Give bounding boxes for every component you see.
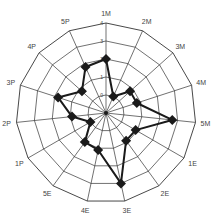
axis-label-1e: 1E	[188, 160, 197, 167]
axis-label-2e: 2E	[160, 190, 169, 197]
grid-spoke	[39, 53, 106, 113]
axis-label-1m: 1M	[101, 10, 111, 17]
axis-label-3m: 3M	[175, 43, 185, 50]
diamond-marker-icon	[108, 92, 118, 102]
radial-tick-label: 1	[100, 74, 103, 80]
axis-label-1p: 1P	[15, 160, 24, 167]
axis-label-4m: 4M	[196, 79, 206, 86]
series-line	[58, 59, 172, 183]
axis-label-3e: 3E	[123, 207, 132, 214]
radial-tick-label: 0	[100, 92, 103, 98]
axis-label-4e: 4E	[81, 207, 90, 214]
grid-spoke	[20, 85, 106, 113]
diamond-marker-icon	[167, 115, 177, 125]
diamond-marker-icon	[81, 62, 91, 72]
radial-tick-label: 3	[100, 38, 103, 44]
radial-tick-label: 4	[100, 20, 103, 26]
axis-label-5p: 5P	[61, 18, 70, 25]
axis-label-2p: 2P	[2, 120, 11, 127]
axis-label-5m: 5M	[201, 120, 211, 127]
radar-chart: 01234 1M2M3M4M5M1E2E3E4E5E1P2P3P4P5P	[0, 0, 212, 219]
axis-label-3p: 3P	[7, 79, 16, 86]
axis-label-5e: 5E	[43, 190, 52, 197]
center-dot	[104, 111, 108, 115]
axis-label-2m: 2M	[142, 18, 152, 25]
diamond-marker-icon	[132, 98, 142, 108]
axis-label-4p: 4P	[27, 43, 36, 50]
